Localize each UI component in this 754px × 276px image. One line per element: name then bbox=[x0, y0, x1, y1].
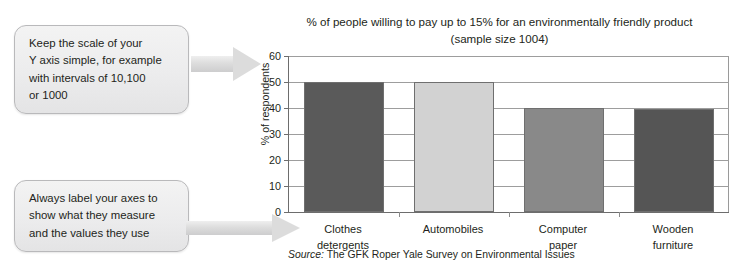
source-prefix: Source: bbox=[288, 249, 324, 260]
x-tick-label-line: Automobiles bbox=[398, 222, 508, 238]
callout-axes-line-1: Always label your axes to bbox=[29, 190, 175, 207]
x-tick-label: Woodenfurniture bbox=[618, 222, 728, 253]
y-tick-label: 20 bbox=[253, 154, 281, 166]
y-tick-label: 50 bbox=[253, 76, 281, 88]
callout-scale-tip: Keep the scale of your Y axis simple, fo… bbox=[14, 25, 189, 114]
bar bbox=[304, 82, 384, 212]
y-axis-tick bbox=[284, 56, 289, 57]
y-axis-tick bbox=[284, 212, 289, 213]
chart-title-line-1: % of people willing to pay up to 15% for… bbox=[256, 14, 743, 31]
y-axis-tick-labels: 0102030405060 bbox=[253, 56, 281, 212]
bar bbox=[524, 108, 604, 212]
plot-area bbox=[288, 56, 729, 213]
bar bbox=[414, 82, 494, 212]
x-tick-label-line: Computer bbox=[508, 222, 618, 238]
callout-scale-line-3: with intervals of 10,100 bbox=[29, 70, 175, 87]
y-axis-tick bbox=[284, 186, 289, 187]
chart-source-note: Source: The GFK Roper Yale Survey on Env… bbox=[288, 249, 575, 260]
y-tick-label: 60 bbox=[253, 50, 281, 62]
y-tick-label: 10 bbox=[253, 180, 281, 192]
plot-area-wrapper: % of respondents 0102030405060 Clothesde… bbox=[243, 56, 743, 231]
callout-axes-line-3: and the values they use bbox=[29, 225, 175, 242]
callout-axes-line-2: show what they measure bbox=[29, 207, 175, 224]
callout-axes-tip: Always label your axes to show what they… bbox=[14, 180, 189, 252]
chart-title: % of people willing to pay up to 15% for… bbox=[256, 14, 743, 48]
source-text: The GFK Roper Yale Survey on Environment… bbox=[327, 249, 575, 260]
y-tick-label: 40 bbox=[253, 102, 281, 114]
x-tick-label: Automobiles bbox=[398, 222, 508, 238]
x-tick-label-line: Wooden bbox=[618, 222, 728, 238]
bar bbox=[634, 109, 714, 212]
callout-scale-line-4: or 1000 bbox=[29, 87, 175, 104]
y-tick-label: 0 bbox=[253, 206, 281, 218]
callout-scale-line-2: Y axis simple, for example bbox=[29, 52, 175, 69]
x-tick-label-line: Clothes bbox=[288, 222, 398, 238]
bar-chart: % of people willing to pay up to 15% for… bbox=[243, 6, 743, 272]
y-axis-tick bbox=[284, 160, 289, 161]
y-tick-label: 30 bbox=[253, 128, 281, 140]
x-tick-label-line: furniture bbox=[618, 238, 728, 254]
y-axis-tick bbox=[284, 108, 289, 109]
y-axis-tick bbox=[284, 134, 289, 135]
arrow-shaft bbox=[191, 56, 235, 72]
gridline bbox=[289, 56, 729, 57]
y-axis-tick bbox=[284, 82, 289, 83]
chart-title-line-2: (sample size 1004) bbox=[256, 31, 743, 48]
callout-scale-line-1: Keep the scale of your bbox=[29, 35, 175, 52]
